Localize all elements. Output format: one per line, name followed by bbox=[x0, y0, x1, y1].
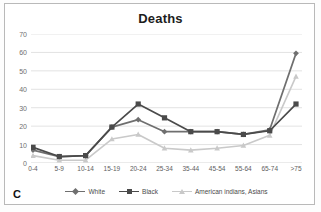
y-tick-label: 50 bbox=[11, 67, 27, 74]
series-white bbox=[31, 50, 299, 159]
y-axis-labels: 010203040506070 bbox=[9, 34, 27, 163]
legend-item[interactable]: Black bbox=[119, 188, 158, 195]
plot-area bbox=[31, 34, 302, 163]
chart-legend: WhiteBlackAmerican indians, Asians bbox=[31, 184, 302, 198]
y-tick-label: 40 bbox=[11, 86, 27, 93]
x-tick-label: 35-44 bbox=[182, 165, 199, 172]
legend-swatch-square-icon bbox=[119, 188, 139, 195]
y-tick-label: 70 bbox=[11, 31, 27, 38]
chart-title: Deaths bbox=[5, 11, 316, 26]
y-tick-label: 30 bbox=[11, 104, 27, 111]
x-tick-label: >75 bbox=[290, 165, 301, 172]
legend-label: Black bbox=[142, 188, 158, 195]
x-tick-label: 45-54 bbox=[209, 165, 226, 172]
x-tick-label: 25-34 bbox=[156, 165, 173, 172]
y-tick-label: 60 bbox=[11, 49, 27, 56]
legend-swatch-triangle-icon bbox=[172, 188, 192, 195]
x-axis-labels: 0-45-910-1415-1920-2425-3435-4445-5455-6… bbox=[31, 165, 302, 179]
legend-label: American indians, Asians bbox=[195, 188, 268, 195]
y-tick-label: 10 bbox=[11, 141, 27, 148]
x-tick-label: 15-19 bbox=[104, 165, 121, 172]
figure-panel-c: Deaths 010203040506070 0-45-910-1415-192… bbox=[0, 0, 321, 212]
x-tick-label: 65-74 bbox=[261, 165, 278, 172]
x-tick-label: 55-64 bbox=[235, 165, 252, 172]
x-tick-label: 20-24 bbox=[130, 165, 147, 172]
x-tick-label: 5-9 bbox=[55, 165, 64, 172]
legend-label: White bbox=[88, 188, 105, 195]
y-tick-label: 20 bbox=[11, 123, 27, 130]
y-tick-label: 0 bbox=[11, 160, 27, 167]
legend-item[interactable]: American indians, Asians bbox=[172, 188, 268, 195]
chart-panel: Deaths 010203040506070 0-45-910-1415-192… bbox=[4, 3, 315, 205]
legend-swatch-diamond-icon bbox=[65, 188, 85, 195]
panel-letter: C bbox=[13, 188, 21, 200]
line-chart-svg bbox=[31, 34, 302, 163]
x-tick-label: 0-4 bbox=[28, 165, 37, 172]
x-tick-label: 10-14 bbox=[77, 165, 94, 172]
legend-item[interactable]: White bbox=[65, 188, 105, 195]
